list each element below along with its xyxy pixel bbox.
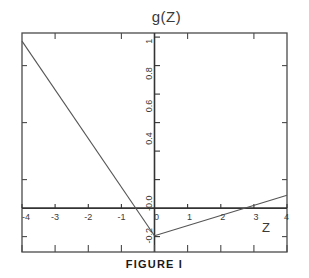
y-tick-labels: 10.80.60.4-0.0-0.2 xyxy=(144,39,154,244)
plot-area: -4-3-2-101234 10.80.60.4-0.0-0.2 Z xyxy=(0,0,309,278)
x-tick-label: -1 xyxy=(117,212,125,222)
x-tick-label: -4 xyxy=(22,212,30,222)
x-tick-label: 0 xyxy=(154,212,159,222)
x-tick-label: 3 xyxy=(253,212,258,222)
x-tick-label: 4 xyxy=(284,212,289,222)
y-tick-label: -0.0 xyxy=(144,196,154,212)
y-tick-marks-axis xyxy=(155,37,161,237)
x-tick-label: -2 xyxy=(84,212,92,222)
x-tick-label: 1 xyxy=(187,212,192,222)
x-tick-marks-bottom xyxy=(22,245,287,252)
x-tick-labels: -4-3-2-101234 xyxy=(22,212,289,222)
y-tick-label: -0.2 xyxy=(144,228,154,244)
y-tick-label: 0.4 xyxy=(144,132,154,145)
figure-caption: FIGURE I xyxy=(0,258,309,270)
x-axis-title: Z xyxy=(262,220,270,235)
y-tick-marks-right xyxy=(282,66,287,237)
x-tick-label: -3 xyxy=(51,212,59,222)
figure-container: g(Z) xyxy=(0,0,309,278)
y-tick-label: 0.6 xyxy=(144,100,154,113)
y-tick-label: 0.8 xyxy=(144,67,154,80)
y-tick-label: 1 xyxy=(144,39,154,44)
y-tick-marks-left xyxy=(22,66,27,237)
x-tick-label: 2 xyxy=(220,212,225,222)
